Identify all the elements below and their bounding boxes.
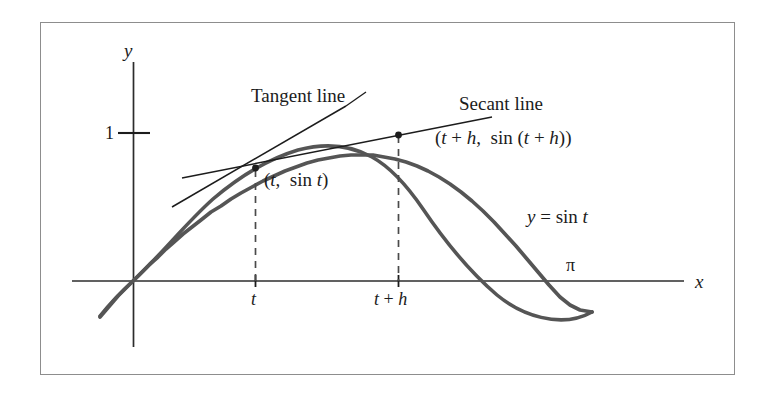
figure-root: x y 1 t t + h π Tangent line Secant line… [0,0,777,397]
secant-point-marker [395,132,402,139]
x-axis-label: x [695,272,703,291]
secant-point-label: (t + h, sin (t + h)) [435,128,572,147]
x-label-pi: π [566,256,575,274]
plot-canvas [0,0,777,397]
sine-curve [100,146,592,320]
tangent-line [172,106,346,207]
y-axis-label: y [124,41,132,60]
tangent-line-label: Tangent line [251,86,345,105]
x-tick-label-t: t [251,290,256,308]
curve-equation-label: y = sin t [527,207,588,226]
sine-curve-main [100,155,592,317]
secant-line-label: Secant line [459,94,543,113]
y-tick-label-1: 1 [105,124,114,142]
tangent-point-marker [252,165,259,172]
tangent-point-label: (t, sin t) [264,170,328,189]
x-tick-label-t-plus-h: t + h [374,290,407,308]
tangent-label-leader [346,92,366,106]
